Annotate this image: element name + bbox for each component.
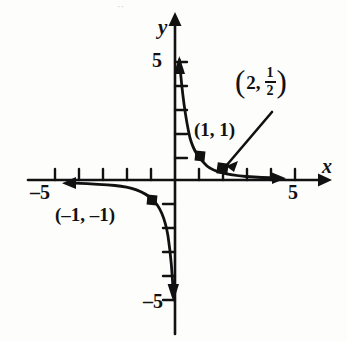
y-axis-arrowhead	[169, 12, 182, 26]
fraction-one-half: 1 2	[265, 66, 276, 98]
y-tick-label-minus-5: –5	[143, 291, 163, 311]
point-marker-1-1	[195, 151, 206, 162]
close-paren: )	[277, 71, 287, 93]
scan-artifact-top: ··	[117, 0, 133, 6]
y-tick-label-5: 5	[152, 50, 162, 70]
fraction-numerator: 1	[265, 66, 276, 80]
figure-canvas: y x 5 –5 –5 5 (1, 1) (–1, –1) ( 2, 1 2 )…	[0, 0, 347, 341]
x-tick-label-5: 5	[288, 182, 298, 202]
point-label-minus1-minus1: (–1, –1)	[55, 205, 115, 224]
point-label-2-one-half: ( 2, 1 2 )	[235, 66, 287, 98]
point-label-x-part: 2,	[246, 73, 260, 92]
y-axis-label: y	[158, 17, 167, 38]
open-paren: (	[235, 71, 245, 93]
fraction-denominator: 2	[265, 84, 276, 98]
x-tick-label-minus-5: –5	[30, 182, 50, 202]
point-marker-neg1-neg1	[147, 195, 158, 206]
curve-branch-negative	[70, 183, 173, 296]
x-axis-label: x	[322, 156, 332, 176]
curve-right-arrowhead	[272, 173, 286, 185]
coordinate-plane	[0, 0, 347, 341]
point-label-1-1: (1, 1)	[194, 120, 235, 139]
